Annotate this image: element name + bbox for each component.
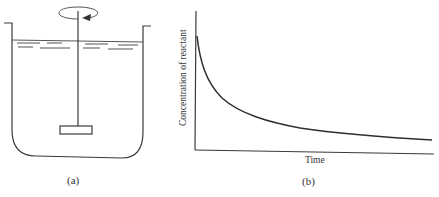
reactor-diagram: (a) — [4, 7, 151, 187]
decay-curve — [197, 36, 432, 140]
figure-b-label: (b) — [302, 175, 315, 188]
impeller-paddle — [60, 126, 92, 134]
arrowhead-icon — [82, 14, 91, 21]
figure-a-label: (a) — [67, 174, 80, 187]
y-axis-label: Concentration of reactant — [178, 29, 188, 126]
figure-canvas: (a) Concentration of reactant Time (b) — [0, 0, 439, 197]
x-axis-label: Time — [305, 155, 325, 165]
y-axis — [195, 11, 196, 150]
concentration-chart: Concentration of reactant Time (b) — [178, 11, 434, 188]
x-axis — [195, 150, 434, 154]
